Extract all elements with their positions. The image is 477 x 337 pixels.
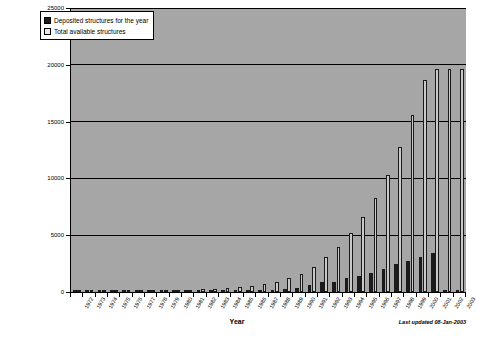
bar-deposited	[172, 290, 176, 292]
x-axis-tick-label: 1992	[330, 296, 341, 310]
x-axis-tick-label: 1979	[169, 296, 180, 310]
x-axis-tick-label: 2002	[453, 296, 464, 310]
y-axis-tick-label: 15000	[24, 119, 64, 125]
bar-group	[96, 8, 108, 292]
bar-total	[164, 290, 168, 292]
bar-deposited	[406, 261, 410, 292]
x-axis-tick-label: 1991	[317, 296, 328, 310]
bar-total	[127, 290, 131, 292]
bar-deposited	[431, 253, 435, 292]
x-axis-tick-label: 1987	[268, 296, 279, 310]
x-axis-tick-label: 2000	[429, 296, 440, 310]
x-axis-tick-label: 1994	[354, 296, 365, 310]
bar-group	[293, 8, 305, 292]
x-axis-tick-mark	[255, 293, 256, 297]
bar-total	[213, 289, 217, 292]
x-axis-tick-label: 1993	[342, 296, 353, 310]
x-axis-tick-mark	[366, 293, 367, 297]
bar-group	[392, 8, 404, 292]
bar-deposited	[234, 290, 238, 292]
x-axis-tick-mark	[82, 293, 83, 297]
x-axis-tick-mark	[230, 293, 231, 297]
x-axis-tick-label: 1985	[243, 296, 254, 310]
x-axis-tick-mark	[280, 293, 281, 297]
bar-group	[83, 8, 95, 292]
x-axis-tick-mark	[181, 293, 182, 297]
x-axis-tick-mark	[144, 293, 145, 297]
bar-deposited	[246, 290, 250, 292]
bar-total	[460, 69, 464, 292]
x-axis-tick-label: 1977	[145, 296, 156, 310]
x-axis-tick-label: 1989	[293, 296, 304, 310]
bar-total	[411, 115, 415, 292]
bar-total	[374, 198, 378, 292]
x-axis-tick-label: 1973	[95, 296, 106, 310]
y-axis-tick-label: 10000	[24, 175, 64, 181]
x-axis-tick-label: 1986	[256, 296, 267, 310]
x-axis-tick-mark	[169, 293, 170, 297]
x-axis-tick-label: 1981	[194, 296, 205, 310]
bar-group	[454, 8, 466, 292]
x-axis-tick-mark	[292, 293, 293, 297]
last-updated-annotation: Last updated 08-Jan-2003	[399, 319, 466, 325]
x-axis-tick-mark	[206, 293, 207, 297]
bar-deposited	[357, 276, 361, 292]
bar-deposited	[283, 289, 287, 292]
bar-total	[349, 233, 353, 292]
x-axis-tick-label: 1995	[367, 296, 378, 310]
bar-total	[423, 80, 427, 292]
x-axis-tick-mark	[465, 293, 466, 297]
bar-total	[312, 267, 316, 292]
bar-group	[219, 8, 231, 292]
bar-total	[139, 290, 143, 292]
bar-group	[182, 8, 194, 292]
bar-total	[250, 286, 254, 292]
bar-group	[157, 8, 169, 292]
x-axis-tick-label: 1974	[108, 296, 119, 310]
bar-group	[108, 8, 120, 292]
x-axis-tick-label: 1980	[182, 296, 193, 310]
x-axis-tick-label: 1984	[231, 296, 242, 310]
x-axis-tick-label: 1983	[219, 296, 230, 310]
bar-total	[337, 247, 341, 292]
bar-group	[231, 8, 243, 292]
bar-deposited	[369, 273, 373, 292]
bar-total	[435, 69, 439, 292]
bar-group	[71, 8, 83, 292]
bar-group	[330, 8, 342, 292]
bar-deposited	[332, 282, 336, 292]
bar-group	[417, 8, 429, 292]
bar-group	[343, 8, 355, 292]
x-axis-tick-mark	[329, 293, 330, 297]
bar-total	[226, 288, 230, 292]
bar-total	[90, 290, 94, 292]
bar-deposited	[345, 278, 349, 292]
bar-deposited	[73, 290, 77, 292]
x-axis-tick-label: 1988	[280, 296, 291, 310]
bar-deposited	[308, 285, 312, 292]
x-axis-tick-mark	[391, 293, 392, 297]
bar-deposited	[184, 290, 188, 292]
bar-group	[380, 8, 392, 292]
x-axis-tick-label: 1975	[120, 296, 131, 310]
bar-deposited	[85, 290, 89, 292]
bar-group	[441, 8, 453, 292]
bar-deposited	[197, 290, 201, 292]
x-axis-tick-label: 1998	[404, 296, 415, 310]
x-axis-tick-mark	[453, 293, 454, 297]
x-axis-tick-label: 2001	[441, 296, 452, 310]
x-axis-tick-label: 1996	[379, 296, 390, 310]
x-axis-tick-mark	[379, 293, 380, 297]
bar-deposited	[419, 257, 423, 292]
bar-total	[287, 278, 291, 292]
bar-total	[324, 257, 328, 292]
x-axis-tick-mark	[416, 293, 417, 297]
x-axis-tick-mark	[243, 293, 244, 297]
bar-group	[244, 8, 256, 292]
bar-deposited	[160, 290, 164, 292]
bar-total	[238, 287, 242, 292]
bar-deposited	[320, 282, 324, 292]
y-axis-tick-label: 5000	[24, 232, 64, 238]
bar-total	[114, 290, 118, 292]
bar-group	[120, 8, 132, 292]
